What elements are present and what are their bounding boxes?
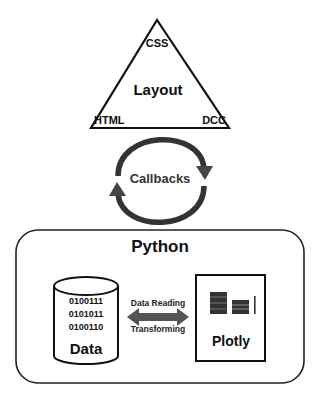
data-label: Data — [58, 340, 114, 357]
transforming-label: Transforming — [122, 324, 194, 334]
dcc-label: DCC — [192, 114, 226, 126]
bits-row: 0100111 — [58, 295, 114, 308]
data-bits: 0100111 0101011 0100110 — [58, 295, 114, 334]
bits-row: 0101011 — [58, 308, 114, 321]
layout-title: Layout — [120, 81, 196, 98]
data-reading-label: Data Reading — [122, 298, 194, 308]
plotly-label: Plotly — [198, 333, 264, 349]
callbacks-label: Callbacks — [120, 171, 200, 186]
diagram-canvas — [0, 0, 322, 405]
bits-row: 0100110 — [58, 321, 114, 334]
html-label: HTML — [94, 114, 134, 126]
css-label: CSS — [140, 37, 174, 49]
python-title: Python — [110, 237, 210, 257]
